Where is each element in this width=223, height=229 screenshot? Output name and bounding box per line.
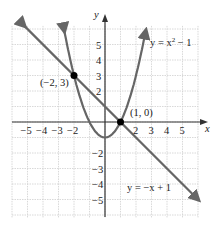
parabola-label: y = x2 − 1 xyxy=(150,36,192,48)
line-label: y = −x + 1 xyxy=(127,182,171,193)
x-tick-label: 4 xyxy=(164,125,170,136)
y-tick-label: −2 xyxy=(92,148,103,159)
y-tick-label: −4 xyxy=(92,179,104,190)
parabola-label-rest: − 1 xyxy=(175,37,191,48)
y-tick-label: 4 xyxy=(96,55,102,66)
y-axis-label: y xyxy=(93,9,99,20)
intersection-point xyxy=(117,119,124,126)
point-label-1-0: (1, 0) xyxy=(130,107,153,119)
y-tick-label: 5 xyxy=(96,40,101,51)
curves xyxy=(23,24,197,198)
x-axis-label: x xyxy=(204,123,210,134)
graph-plot: −5−4−3−223455432−2−3−4−5 x y y = x2 − 1 … xyxy=(0,0,223,229)
intersection-point xyxy=(71,72,78,79)
x-tick-label: 3 xyxy=(149,125,154,136)
parabola-label-main: y = x xyxy=(150,37,172,48)
y-tick-label: −3 xyxy=(92,164,103,175)
y-tick-label: 2 xyxy=(96,86,101,97)
point-label-neg2-3: (−2, 3) xyxy=(40,77,69,89)
x-tick-label: −4 xyxy=(36,125,48,136)
x-tick-label: −3 xyxy=(52,125,63,136)
y-tick-label: −5 xyxy=(92,195,103,206)
line-curve xyxy=(23,24,197,198)
y-tick-label: 3 xyxy=(96,71,101,82)
x-tick-label: 5 xyxy=(180,125,185,136)
y-axis-arrow-icon xyxy=(102,14,108,22)
x-tick-label: −5 xyxy=(21,125,32,136)
x-tick-label: −2 xyxy=(67,125,78,136)
